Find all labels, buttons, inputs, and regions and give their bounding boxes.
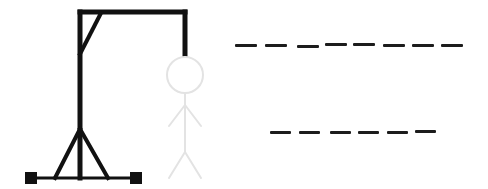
gallows: [34, 12, 185, 178]
letter-slot: [358, 131, 379, 134]
letter-slot: [270, 131, 291, 134]
letter-slot: [353, 43, 375, 46]
gallows-brace: [80, 13, 101, 54]
letter-slot: [299, 131, 320, 134]
hangman-drawing: [0, 0, 488, 189]
letter-slot: [330, 131, 351, 134]
gallows-base-right-foot: [130, 172, 142, 184]
figure-left-arm: [169, 105, 185, 126]
letter-slot: [387, 131, 408, 134]
letter-slot: [235, 44, 257, 47]
gallows-base-left-foot: [25, 172, 37, 184]
letter-slot: [441, 44, 463, 47]
letter-slot: [383, 44, 405, 47]
letter-slot: [325, 43, 347, 46]
gallows-tripod-right: [80, 129, 108, 178]
figure-head: [167, 57, 203, 93]
gallows-tripod-left: [55, 129, 80, 178]
figure-right-arm: [185, 105, 201, 126]
letter-slot: [415, 130, 436, 133]
figure-right-leg: [185, 152, 201, 178]
letter-slot: [412, 44, 434, 47]
figure-left-leg: [169, 152, 185, 178]
hangman-game: Hangman: [0, 0, 488, 189]
letter-slot: [297, 45, 319, 48]
hanged-figure: [167, 57, 203, 178]
letter-slot: [265, 44, 287, 47]
